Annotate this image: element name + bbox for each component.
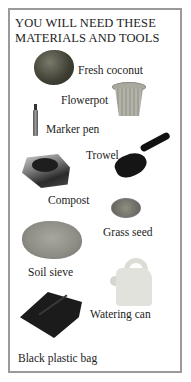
item-label-flowerpot: Flowerpot xyxy=(61,94,108,106)
watering-can-icon xyxy=(110,258,156,308)
item-label-marker-pen: Marker pen xyxy=(46,123,99,135)
marker-pen-icon xyxy=(33,104,38,136)
item-label-fresh-coconut: Fresh coconut xyxy=(78,64,143,76)
item-label-compost: Compost xyxy=(48,194,90,206)
trowel-icon xyxy=(113,140,173,180)
item-label-grass-seed: Grass seed xyxy=(103,226,153,238)
item-label-trowel: Trowel xyxy=(86,149,119,161)
item-label-watering-can: Watering can xyxy=(90,308,151,320)
black-plastic-bag-icon xyxy=(20,292,82,338)
compost-icon xyxy=(22,150,70,192)
panel-title: YOU WILL NEED THESE MATERIALS AND TOOLS xyxy=(15,16,180,46)
item-label-black-plastic-bag: Black plastic bag xyxy=(18,352,97,364)
soil-sieve-icon xyxy=(22,221,82,259)
coconut-icon xyxy=(34,50,74,85)
flowerpot-icon xyxy=(112,82,146,116)
grass-seed-icon xyxy=(111,198,141,218)
item-label-soil-sieve: Soil sieve xyxy=(28,266,73,278)
